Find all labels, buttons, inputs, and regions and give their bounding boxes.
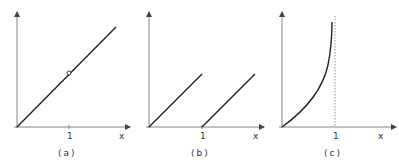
convex-curve [282, 22, 332, 127]
panel-a: 1 x (a) [14, 12, 130, 158]
open-circle-point [67, 71, 71, 75]
tick-label-1: 1 [67, 131, 73, 141]
sawtooth-segment-1 [149, 74, 202, 127]
tick-label-1: 1 [200, 131, 206, 141]
panel-caption-b: (b) [191, 148, 210, 158]
panel-caption-c: (c) [324, 148, 342, 158]
sawtooth-segment-2 [202, 74, 255, 127]
line-y-equals-x [17, 27, 116, 127]
tick-label-1: 1 [333, 131, 339, 141]
panel-c: 1 x (c) [279, 12, 396, 158]
panel-b: 1 x (b) [146, 12, 264, 158]
x-axis-label: x [253, 131, 259, 141]
panel-caption-a: (a) [58, 148, 77, 158]
x-axis-label: x [378, 131, 384, 141]
x-axis-label: x [119, 131, 125, 141]
figure: 1 x (a) 1 x (b) 1 x (c) [0, 0, 399, 164]
